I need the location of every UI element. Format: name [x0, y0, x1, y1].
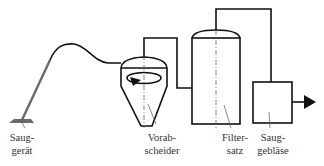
pipe-filter-to-blower: [216, 9, 271, 82]
label-leader-vorabscheider: [148, 104, 156, 124]
suction-blower: [253, 82, 316, 128]
vacuum-system-diagram: Saug- gerät Vorab- scheider Filter- satz…: [0, 0, 324, 166]
label-sauggeraet-line2: gerät: [12, 145, 33, 156]
label-filtersatz-line2: satz: [227, 145, 244, 156]
blower-body: [253, 82, 292, 123]
label-filtersatz-line1: Filter-: [222, 132, 249, 143]
pre-separator: [121, 55, 167, 128]
label-vorabscheider-line2: scheider: [145, 145, 180, 156]
suction-device: [9, 60, 50, 128]
label-sauggeraet-line1: Saug-: [10, 132, 35, 143]
swirl-arrowhead-icon: [130, 77, 141, 86]
suction-wand: [22, 60, 50, 120]
pipe-cyclone-to-filter: [144, 38, 192, 88]
outlet-arrow-icon: [304, 95, 316, 109]
label-leader-saugeblaese: [269, 112, 270, 128]
label-saugeblaese-line2: gebläse: [257, 145, 289, 156]
label-saugeblaese-line1: Saug-: [261, 132, 286, 143]
filter-unit: [192, 30, 240, 128]
label-vorabscheider-line1: Vorab-: [148, 132, 177, 143]
suction-hose: [50, 44, 121, 63]
